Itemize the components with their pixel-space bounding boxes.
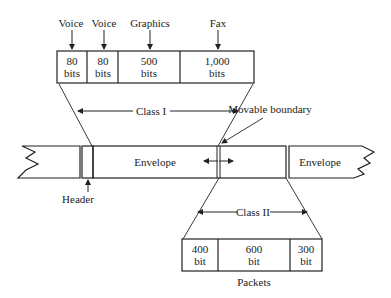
packet-value: 600 <box>246 243 263 255</box>
cell-unit: bits <box>209 67 225 79</box>
packets-label: Packets <box>237 276 271 288</box>
packet-unit: bit <box>194 255 206 267</box>
class1-data-box: 80 bits 80 bits 500 bits 1,000 bits <box>57 51 254 83</box>
class2-label: Class II <box>236 206 270 218</box>
graphics-label: Graphics <box>130 17 170 29</box>
cell-unit: bits <box>95 67 111 79</box>
cell-value: 80 <box>67 55 79 67</box>
header-block <box>82 146 93 178</box>
packets-box: 400 bit 600 bit 300 bit <box>182 239 322 271</box>
envelope-left <box>93 146 286 178</box>
expansion-line-packets-right <box>286 178 322 239</box>
voice-label-1: Voice <box>59 17 84 29</box>
movable-boundary-arrow-icon <box>222 118 263 143</box>
movable-boundary-label: Movable boundary <box>228 103 312 115</box>
fax-label: Fax <box>210 17 227 29</box>
transmission-strip: Envelope Envelope <box>18 146 374 178</box>
cell-unit: bits <box>64 67 80 79</box>
packet-value: 400 <box>192 243 209 255</box>
class1-span: Class I <box>78 105 238 117</box>
frame-structure-diagram: Voice Voice Graphics Fax 80 bits 80 bits… <box>0 0 391 298</box>
left-truncated-segment <box>18 146 80 178</box>
expansion-line-left <box>59 84 92 146</box>
voice-label-2: Voice <box>92 17 117 29</box>
class2-span: Class II <box>198 206 307 218</box>
cell-unit: bits <box>141 67 157 79</box>
packet-unit: bit <box>248 255 260 267</box>
expansion-line-right <box>218 84 253 146</box>
header-label: Header <box>62 193 94 205</box>
cell-value: 80 <box>98 55 110 67</box>
class1-label: Class I <box>136 105 167 117</box>
cell-value: 1,000 <box>205 55 230 67</box>
top-labels: Voice Voice Graphics Fax <box>59 17 227 49</box>
packet-unit: bit <box>300 255 312 267</box>
packet-value: 300 <box>298 243 315 255</box>
envelope-right-label: Envelope <box>299 156 341 168</box>
envelope-left-label: Envelope <box>134 156 176 168</box>
expansion-line-packets-left <box>183 178 219 239</box>
cell-value: 500 <box>141 55 158 67</box>
